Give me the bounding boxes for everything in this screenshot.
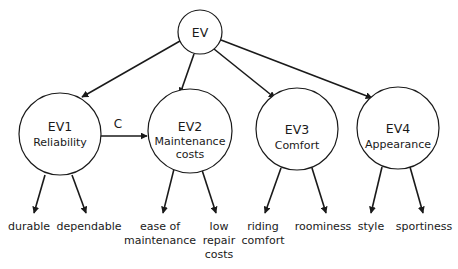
indicator-sportiness: sportiness [396,220,453,233]
edge-label-c: C [114,117,122,131]
node-ev1-code: EV1 [48,119,72,134]
node-ev4-code: EV4 [386,121,410,136]
node-ev2: EV2 Maintenance costs [148,89,232,173]
edge-ev1-durable [34,175,45,213]
node-ev3: EV3 Comfort [256,88,338,170]
edge-ev-to-ev1 [82,41,180,97]
indicator-labels: durable dependable ease of maintenance l… [8,220,453,261]
indicator-ease-of-maintenance-line2: maintenance [124,234,196,247]
node-ev4: EV4 Appearance [357,87,439,169]
edge-ev4-sportiness [410,167,423,213]
edge-ev3-riding [265,168,281,213]
edge-ev2-ease [163,169,174,213]
edge-ev1-dependable [72,175,86,213]
node-ev4-name: Appearance [365,138,431,151]
indicator-durable: durable [8,220,50,233]
edge-ev4-style [371,167,382,213]
edge-ev2-repair [202,170,216,213]
indicator-ease-of-maintenance-line1: ease of [140,220,181,233]
indicator-low-repair-costs-line3: costs [205,248,234,261]
indicator-low-repair-costs-line1: low [210,220,229,233]
root-edges [82,40,372,98]
indicator-riding-comfort-line2: comfort [242,234,286,247]
node-ev1-circle [19,93,101,175]
node-ev2-name-line2: costs [176,148,205,161]
node-ev1: EV1 Reliability [19,93,101,175]
indicator-riding-comfort-line1: riding [247,220,279,233]
node-ev3-code: EV3 [285,122,309,137]
indicator-roominess: roominess [295,220,352,233]
indicator-edges [34,167,423,213]
node-ev-label: EV [192,25,209,40]
node-ev2-code: EV2 [178,119,202,134]
node-ev1-name: Reliability [33,136,87,149]
node-ev2-name-line1: Maintenance [155,135,226,148]
indicator-low-repair-costs-line2: repair [203,234,236,247]
node-ev3-name: Comfort [275,139,320,152]
edge-ev-to-ev2 [180,54,194,94]
indicator-style: style [358,220,385,233]
edge-ev-to-ev3 [214,49,275,98]
hierarchy-diagram: C EV EV1 Reliability EV2 Maintenance cos… [0,0,458,269]
edge-ev3-roominess [312,168,326,213]
indicator-dependable: dependable [56,220,121,233]
node-ev: EV [178,10,222,54]
